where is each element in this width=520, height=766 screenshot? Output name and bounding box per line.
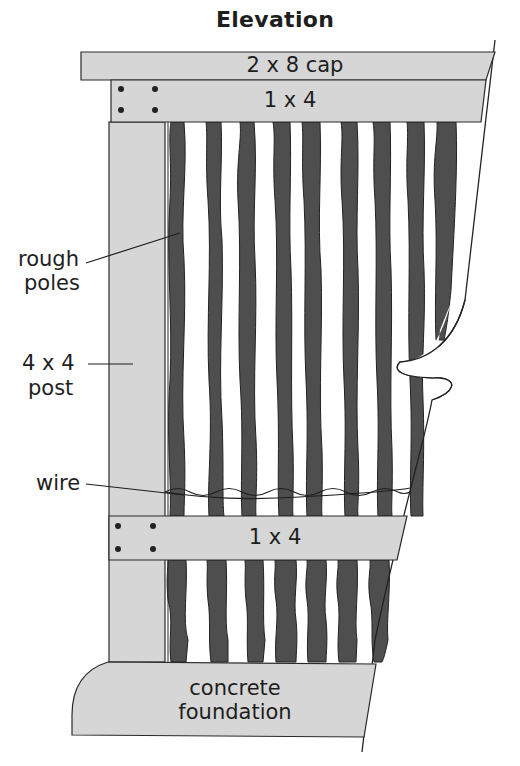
- upper-rail-label: 1 x 4: [245, 89, 335, 112]
- post-label-line1: 4 x 4: [22, 352, 75, 375]
- cap-label: 2 x 8 cap: [220, 54, 370, 77]
- diagram-title: Elevation: [200, 8, 350, 31]
- elevation-diagram: [0, 0, 520, 766]
- rough-poles-label-line1: rough: [18, 248, 79, 271]
- post-4x4: [109, 122, 165, 662]
- wire-label: wire: [36, 472, 80, 495]
- post-label-line2: post: [28, 377, 73, 400]
- lower-rail-label: 1 x 4: [230, 526, 320, 549]
- foundation-label-line2: foundation: [150, 701, 320, 724]
- rough-poles-label-line2: poles: [24, 272, 80, 295]
- foundation-label-line1: concrete: [150, 677, 320, 700]
- lower-poles: [167, 560, 389, 662]
- upper-poles: [169, 122, 457, 516]
